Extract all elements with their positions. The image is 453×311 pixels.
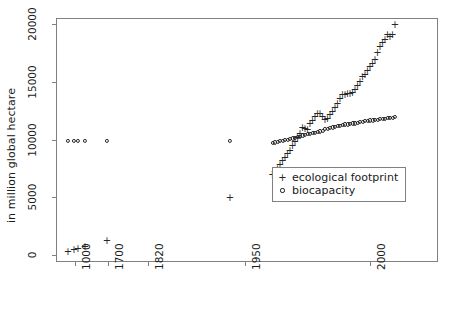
data-point-biocapacity — [105, 139, 109, 143]
data-points-layer: ++++++++++++++++++++++++++++++++++++++++… — [0, 0, 453, 311]
data-point-ecological-footprint: + — [388, 30, 396, 39]
data-point-biocapacity — [393, 115, 397, 119]
data-point-ecological-footprint: + — [81, 241, 89, 250]
legend-label-biocapacity: biocapacity — [292, 184, 355, 197]
chart-canvas: in million global hectare 05000100001500… — [0, 0, 453, 311]
data-point-biocapacity — [76, 139, 80, 143]
data-point-ecological-footprint: + — [226, 193, 234, 202]
data-point-ecological-footprint: + — [391, 20, 399, 29]
data-point-ecological-footprint: + — [103, 235, 111, 244]
data-point-biocapacity — [228, 139, 232, 143]
legend-label-ecological-footprint: ecological footprint — [292, 171, 398, 184]
legend-item-biocapacity: biocapacity — [278, 184, 398, 197]
data-point-biocapacity — [83, 139, 87, 143]
circle-marker-icon — [278, 188, 287, 192]
legend-item-ecological-footprint: + ecological footprint — [278, 171, 398, 184]
plus-marker-icon: + — [278, 172, 287, 183]
chart-legend: + ecological footprint biocapacity — [272, 167, 406, 202]
data-point-biocapacity — [66, 139, 70, 143]
